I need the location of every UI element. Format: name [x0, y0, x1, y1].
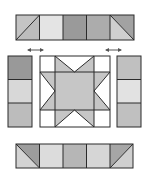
bottom-square-3 [63, 144, 87, 168]
left-square-2 [8, 80, 32, 104]
right-column [117, 56, 141, 127]
quilt-diagram [0, 0, 152, 177]
top-square-4 [87, 15, 111, 40]
star-center-square [55, 72, 94, 110]
top-strip [16, 15, 134, 40]
right-square-3 [117, 103, 141, 127]
left-insert-arrow [27, 48, 44, 52]
left-column [8, 56, 32, 127]
top-square-3 [63, 15, 87, 40]
bottom-strip [16, 144, 133, 168]
center-star-block [40, 56, 110, 127]
right-insert-arrow [105, 48, 122, 52]
left-square-3 [8, 103, 32, 127]
bottom-square-2 [40, 144, 64, 168]
top-square-2 [40, 15, 64, 40]
right-square-2 [117, 80, 141, 104]
right-square-1 [117, 56, 141, 80]
left-square-1 [8, 56, 32, 80]
bottom-square-4 [87, 144, 111, 168]
